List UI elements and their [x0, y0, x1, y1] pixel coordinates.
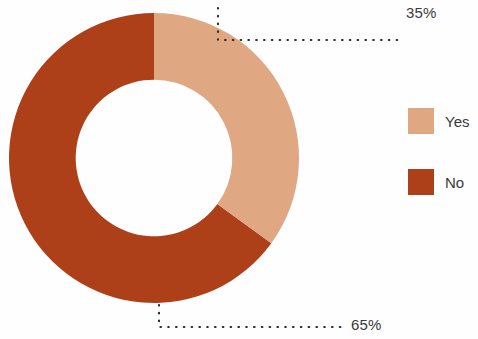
- donut-slices: [9, 13, 299, 303]
- donut-chart: 35% 65% Yes No: [0, 0, 478, 339]
- donut-chart-canvas: [0, 0, 478, 339]
- legend-label-no: No: [445, 174, 464, 191]
- legend-label-yes: Yes: [445, 113, 469, 130]
- data-label-yes-percent: 35%: [406, 4, 437, 21]
- data-label-no-percent: 65%: [351, 316, 382, 333]
- legend-swatch-no-icon: [408, 169, 434, 195]
- legend-item-no[interactable]: No: [408, 169, 478, 195]
- chart-legend: Yes No: [408, 108, 478, 230]
- donut-slice-yes[interactable]: [154, 13, 299, 243]
- leader-line-bottom: [159, 305, 345, 327]
- legend-item-yes[interactable]: Yes: [408, 108, 478, 134]
- legend-swatch-yes-icon: [408, 108, 434, 134]
- leader-line-top: [218, 8, 400, 40]
